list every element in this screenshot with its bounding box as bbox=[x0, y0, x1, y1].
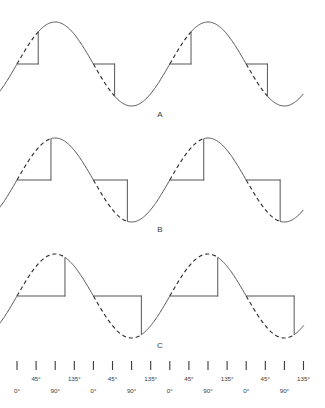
axis-tick-label: 0° bbox=[14, 387, 20, 394]
waveform-group-b: B bbox=[0, 138, 303, 234]
axis-tick-label: 90° bbox=[51, 387, 61, 394]
axis-tick-label: 135° bbox=[144, 375, 157, 382]
waveform-b-output-solid bbox=[0, 138, 303, 222]
axis-tick-label: 90° bbox=[280, 387, 290, 394]
waveform-a-output-solid bbox=[0, 22, 303, 106]
waveform-a-blocked-dashed bbox=[17, 32, 267, 96]
axis-tick-label: 45° bbox=[31, 375, 41, 382]
waveform-b-label: B bbox=[157, 225, 162, 234]
waveform-c-output-solid bbox=[0, 257, 304, 334]
axis-tick-label: 45° bbox=[108, 375, 118, 382]
axis-tick-label: 0° bbox=[90, 387, 96, 394]
waveform-group-a: A bbox=[0, 22, 303, 119]
axis-tick-label: 135° bbox=[297, 375, 310, 382]
axis-tick-label: 90° bbox=[127, 387, 137, 394]
axis-tick-label: 135° bbox=[221, 375, 234, 382]
axis-tick-label: 135° bbox=[68, 375, 81, 382]
axis-tick-label: 0° bbox=[167, 387, 173, 394]
waveform-b-blocked-dashed bbox=[17, 139, 280, 222]
axis-tick-label: 45° bbox=[184, 375, 194, 382]
axis-tick-label: 90° bbox=[203, 387, 213, 394]
degree-axis: 0°45°90°135°0°45°90°135°0°45°90°135°0°45… bbox=[14, 361, 310, 394]
waveform-group-c: C bbox=[0, 254, 304, 350]
waveform-a-label: A bbox=[157, 110, 163, 119]
axis-tick-label: 0° bbox=[243, 387, 249, 394]
axis-tick-label: 45° bbox=[261, 375, 271, 382]
waveform-c-label: C bbox=[157, 341, 163, 350]
phase-control-waveform-figure: A B C 0°45°90°135°0°45°90°135°0°45°90°13… bbox=[0, 0, 325, 408]
